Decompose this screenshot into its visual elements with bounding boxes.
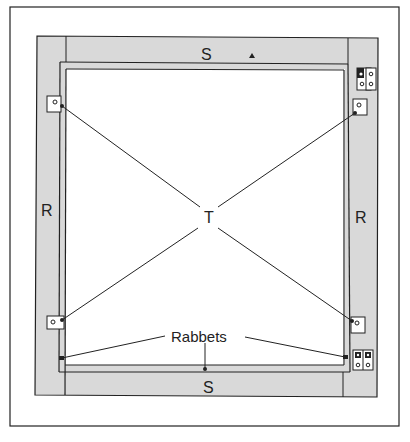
corner-plate-top-right: [353, 99, 367, 115]
label-top-rail: S: [201, 46, 212, 63]
label-bottom-rail: S: [203, 379, 214, 396]
frame-diagram: S S R R T Rabbets: [0, 0, 410, 442]
corner-plate-bottom-left: [47, 316, 64, 329]
corner-plate-bottom-right: [350, 317, 365, 333]
label-center: T: [204, 209, 214, 226]
hinge-top-right: [357, 68, 376, 90]
label-left-stile: R: [41, 202, 53, 219]
frame-diagram-svg: S S R R T Rabbets: [0, 0, 410, 442]
corner-plate-top-left: [47, 96, 64, 112]
label-right-stile: R: [355, 209, 367, 226]
hinge-bottom-right: [353, 350, 373, 370]
label-rabbets: Rabbets: [171, 328, 227, 345]
